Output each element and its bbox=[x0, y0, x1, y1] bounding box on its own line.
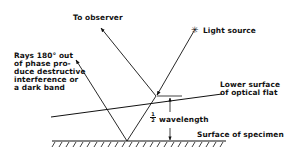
rays-label-line5: a dark band bbox=[14, 84, 65, 92]
light-source-label: Light source bbox=[203, 27, 256, 35]
light-source-icon: ✳ bbox=[191, 26, 199, 34]
incident-ray bbox=[157, 31, 194, 95]
flat-label-line2: of optical flat bbox=[220, 89, 278, 97]
to-observer-label: To observer bbox=[73, 14, 123, 22]
specimen-hatching bbox=[52, 142, 223, 147]
observer-ray bbox=[101, 28, 156, 96]
half-fraction: 1 2 bbox=[150, 112, 156, 123]
half-denominator: 2 bbox=[150, 117, 156, 123]
optical-flat-line bbox=[51, 94, 222, 117]
specimen-label: Surface of specimen bbox=[197, 131, 284, 139]
wavelength-label: wavelength bbox=[159, 116, 209, 124]
